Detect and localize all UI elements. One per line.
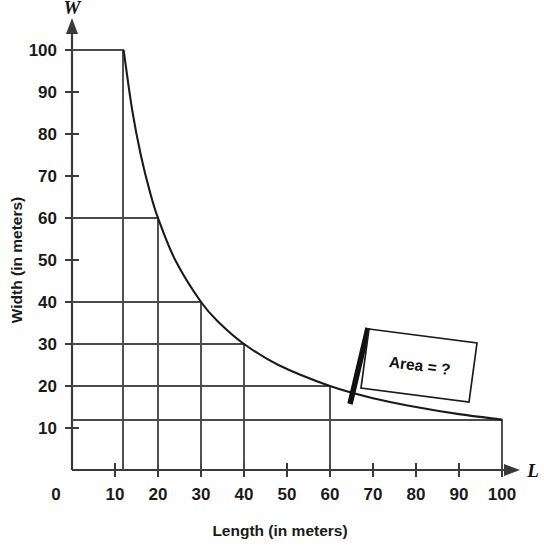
y-tick-label-40: 40 (38, 293, 57, 312)
x-tick-label-30: 30 (192, 485, 211, 504)
x-tick-label-20: 20 (149, 485, 168, 504)
x-axis (72, 464, 520, 476)
y-axis-arrowhead (66, 18, 78, 34)
y-tick-label-50: 50 (38, 251, 57, 270)
y-axis-title: Width (in meters) (8, 197, 25, 323)
rect-guide-12x100 (72, 50, 123, 470)
x-tick-label-60: 60 (321, 485, 340, 504)
y-tick-label-10: 10 (38, 419, 57, 438)
rect-guide-100x12 (72, 420, 502, 470)
x-tick-label-40: 40 (235, 485, 254, 504)
y-axis (66, 18, 78, 470)
x-axis-arrowhead (504, 464, 520, 476)
x-axis-title: Length (in meters) (212, 522, 347, 539)
y-tick-labels: 100 90 80 70 60 50 40 30 20 10 (29, 41, 57, 438)
x-tick-labels: 0 10 20 30 40 50 60 70 80 90 100 (51, 485, 516, 504)
x-tick-label-80: 80 (407, 485, 426, 504)
x-tick-label-70: 70 (364, 485, 383, 504)
y-axis-symbol: W (64, 0, 82, 18)
x-tick-label-90: 90 (450, 485, 469, 504)
x-tick-label-0: 0 (51, 485, 60, 504)
x-tick-label-50: 50 (278, 485, 297, 504)
y-tick-label-70: 70 (38, 167, 57, 186)
area-callout: Area = ? (350, 328, 477, 404)
y-tick-label-90: 90 (38, 83, 57, 102)
x-tick-label-100: 100 (488, 485, 516, 504)
y-tick-label-30: 30 (38, 335, 57, 354)
rectangle-guides (72, 50, 502, 470)
y-tick-label-100: 100 (29, 41, 57, 60)
x-axis-symbol: L (526, 460, 539, 481)
hyperbola-area-chart: 100 90 80 70 60 50 40 30 20 10 0 10 20 3… (0, 0, 544, 548)
y-tick-label-60: 60 (38, 209, 57, 228)
x-tick-label-10: 10 (106, 485, 125, 504)
y-tick-label-80: 80 (38, 125, 57, 144)
y-tick-label-20: 20 (38, 377, 57, 396)
